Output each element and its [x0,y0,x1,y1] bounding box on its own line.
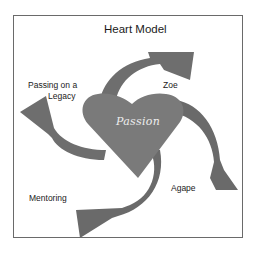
zoe-arrow [100,52,194,100]
label-mentoring: Mentoring [29,193,67,203]
center-label: Passion [98,115,178,128]
heart-shape [83,93,184,178]
diagram-title: Heart Model [0,23,260,35]
label-agape: Agape [171,183,196,193]
label-legacy-line2: Legacy [48,91,75,101]
label-legacy-line1: Passing on a [28,80,77,90]
label-zoe: Zoe [163,80,178,90]
